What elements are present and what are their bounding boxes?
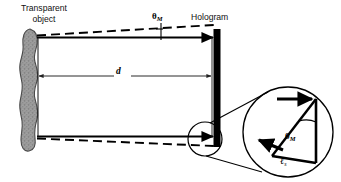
theta-m-top-label: θM xyxy=(152,11,162,22)
theta-top-subscript: M xyxy=(157,15,163,22)
top-dashed-ray xyxy=(37,25,214,36)
ell-subscript: s xyxy=(284,161,286,167)
diagram-canvas xyxy=(0,0,341,182)
inset-angle-arc xyxy=(299,120,316,122)
transparent-object-label-line2: object xyxy=(33,14,56,24)
dimension-extension-lines xyxy=(38,37,212,137)
ell-s-inset-label: ℓs xyxy=(280,155,287,167)
hologram-label: Hologram xyxy=(191,12,228,22)
distance-label: d xyxy=(116,66,121,76)
transparent-object-label-line1: Transparent xyxy=(21,3,67,13)
theta-inset-subscript: M xyxy=(290,135,296,142)
holography-diagram: Transparent object Hologram θM d θM ℓs xyxy=(0,0,341,182)
transparent-object-label: Transparent object xyxy=(6,3,82,25)
transparent-object-blob xyxy=(20,29,38,151)
theta-m-inset-label: θM xyxy=(285,131,295,142)
